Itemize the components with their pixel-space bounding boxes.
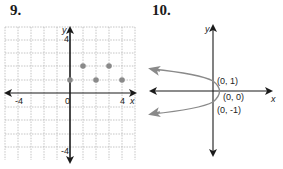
graph-9-x-tick-neg4: -4 [15, 96, 23, 106]
graph-9-axes [6, 28, 135, 162]
graph-9-y-tick-4: 4 [64, 34, 69, 44]
graph-9-x-label: x [129, 96, 135, 106]
point-0-1 [67, 77, 73, 83]
graph-9-x-tick-4: 4 [120, 96, 125, 106]
graph-10-y-label: y [204, 24, 210, 34]
point-4-1 [119, 77, 125, 83]
graph-10-x-label: x [270, 94, 276, 104]
graphs-canvas: y 4 -4 0 4 x -4 y x (0, 1) (0, 0) (0, -1… [0, 0, 283, 169]
point-2-1 [93, 77, 99, 83]
graph-10-axes [151, 26, 271, 155]
graph-10-label-0-neg1: (0, -1) [217, 105, 241, 115]
graph-9-origin-label: 0 [65, 96, 70, 106]
graph-10-label-0-1: (0, 1) [217, 76, 238, 86]
graph-9-y-tick-neg4: -4 [61, 146, 69, 156]
point-1-2 [80, 63, 86, 69]
graph-10-label-0-0: (0, 0) [223, 92, 244, 102]
point-3-2 [106, 63, 112, 69]
